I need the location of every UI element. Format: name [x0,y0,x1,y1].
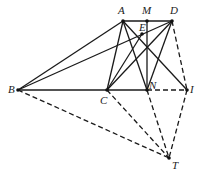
geometry-diagram: A M D E B C N I T [0,0,197,180]
point-t [167,156,171,160]
label-t: T [172,160,178,171]
point-d [170,19,174,23]
segment-bt [18,90,169,158]
point-i [185,88,189,92]
point-b [16,88,20,92]
label-i: I [190,84,194,95]
segment-nt [147,90,169,158]
segment-ct [107,90,169,158]
point-c [105,88,109,92]
label-d: D [170,5,178,16]
segment-it [169,90,187,158]
diagram-lines [0,0,197,180]
solid-segments [18,21,187,90]
label-b: B [8,84,15,95]
label-m: M [142,5,151,16]
label-a: A [118,5,125,16]
segment-di [172,21,187,90]
label-c: C [100,95,107,106]
label-n: N [149,80,156,91]
segment-ac [107,21,123,90]
segment-ba [18,21,123,90]
point-a [121,19,125,23]
label-e: E [139,22,146,33]
